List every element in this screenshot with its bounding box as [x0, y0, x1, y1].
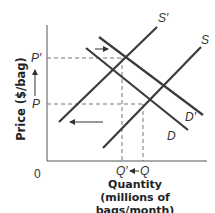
x-axis-title: Quantity (millions of bags/month) — [60, 178, 210, 213]
label-p-prime: P′ — [31, 52, 41, 64]
x-axis-title-sub: (millions of bags/month) — [60, 191, 210, 213]
demand-curve-d-prime — [99, 37, 203, 115]
label-q: Q — [140, 165, 149, 177]
label-d-prime: D′ — [185, 111, 196, 123]
label-q-prime: Q′ — [116, 165, 128, 177]
y-axis-title: Price ($/bag) — [14, 44, 28, 154]
x-axis-title-main: Quantity — [60, 178, 210, 191]
label-p: P — [32, 98, 40, 110]
supply-curve-s — [103, 47, 201, 148]
label-s-prime: S′ — [158, 12, 168, 24]
origin-label: 0 — [34, 168, 41, 180]
demand-curve-d — [86, 48, 188, 130]
label-d: D — [167, 130, 176, 142]
label-s: S — [201, 34, 209, 46]
